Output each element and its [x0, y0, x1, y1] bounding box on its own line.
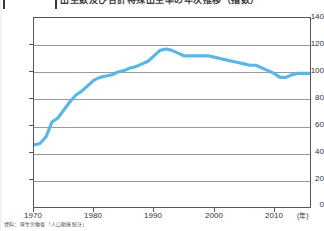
x-tick-label-2000: 2000 — [194, 211, 234, 220]
title-bar-marker — [55, 0, 57, 9]
x-tick-label-1970: 1970 — [13, 211, 53, 220]
x-axis-unit-label: (年) — [297, 211, 309, 220]
x-tick-label-1990: 1990 — [133, 211, 173, 220]
series-line-index — [34, 18, 310, 207]
title-left-rule — [3, 0, 5, 9]
chart-page: 出生数及び合計特殊出生率の年次推移（指数） 140 120 100 80 60 … — [0, 0, 324, 231]
plot-area — [33, 17, 311, 208]
chart-title: 出生数及び合計特殊出生率の年次推移（指数） — [60, 0, 260, 5]
chart-area: 140 120 100 80 60 40 20 0 — [0, 9, 324, 209]
x-tick-label-1980: 1980 — [73, 211, 113, 220]
x-tick-label-2010: 2010 — [254, 211, 294, 220]
source-footnote: 資料：厚生労働省「人口動態統計」 — [4, 221, 87, 228]
chart-title-strip: 出生数及び合計特殊出生率の年次推移（指数） — [0, 0, 324, 9]
